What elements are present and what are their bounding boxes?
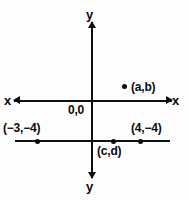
x-axis-label-right: x (172, 94, 179, 107)
y-axis-line (91, 22, 93, 178)
y-axis-up-arrow-icon (88, 21, 96, 28)
x-axis-line (14, 100, 172, 102)
y-axis-label-top: y (86, 8, 93, 21)
data-point-label-ab: (a,b) (131, 81, 155, 93)
x-axis-label-left: x (4, 94, 11, 107)
y-axis-down-arrow-icon (88, 172, 96, 179)
origin-label: 0,0 (68, 104, 84, 116)
data-point-label-minus3-minus4: (−3,−4) (3, 122, 40, 134)
data-point-label-cd: (c,d) (97, 145, 121, 157)
data-point-4-minus4 (138, 139, 143, 144)
data-point-ab (122, 84, 127, 89)
data-point-label-4-minus4: (4,−4) (131, 122, 161, 134)
coordinate-plane-figure: x x y y 0,0 (a,b) (−3,−4) (c,d) (4,−4) (0, 0, 189, 200)
data-point-minus3-minus4 (35, 139, 40, 144)
x-axis-left-arrow-icon (13, 96, 20, 104)
y-axis-label-bottom: y (86, 180, 93, 193)
